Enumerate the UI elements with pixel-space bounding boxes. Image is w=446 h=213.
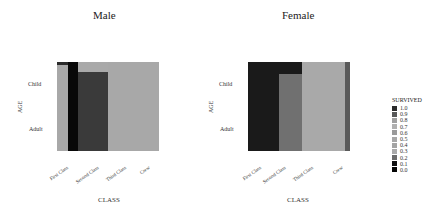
male-x-tick-first-class: First Class: [49, 165, 69, 181]
legend-swatch: [392, 161, 397, 166]
legend-label: 0.3: [400, 148, 408, 154]
male-x-axis-title: CLASS: [98, 196, 120, 204]
female-mosaic-tile: [302, 62, 345, 151]
male-x-tick-crew: Crew: [139, 165, 151, 175]
legend-swatch: [392, 143, 397, 148]
male-y-label-child: Child: [28, 81, 41, 87]
female-mosaic-tile: [279, 74, 302, 151]
legend-swatch: [392, 137, 397, 142]
legend-label: 1.0: [400, 105, 408, 111]
legend-label: 0.0: [400, 167, 408, 173]
male-y-axis-title: AGE: [17, 101, 23, 113]
legend-label: 0.5: [400, 136, 408, 142]
female-y-label-child: Child: [219, 81, 232, 87]
legend-swatch: [392, 130, 397, 135]
legend-items: 1.00.90.80.70.60.50.40.30.20.10.0: [392, 105, 422, 173]
female-mosaic-tile: [248, 62, 279, 151]
male-mosaic-tile: [78, 72, 108, 151]
male-panel-title: Male: [93, 9, 116, 21]
legend-swatch: [392, 149, 397, 154]
male-mosaic-tile: [68, 62, 78, 151]
legend-swatch: [392, 118, 397, 123]
legend-title: SURVIVED: [392, 97, 422, 103]
male-x-tick-second-class: Second Class: [75, 165, 100, 184]
male-mosaic-tile: [108, 62, 159, 151]
female-x-tick-crew: Crew: [332, 165, 344, 175]
female-mosaic-tile: [345, 62, 350, 151]
male-mosaic-tile: [78, 62, 108, 72]
legend-item: 0.0: [392, 167, 422, 173]
female-panel-title: Female: [282, 9, 314, 21]
legend-label: 0.1: [400, 161, 408, 167]
male-mosaic-tile: [57, 65, 68, 151]
female-y-label-adult: Adult: [220, 126, 234, 132]
legend-label: 0.9: [400, 111, 408, 117]
female-x-tick-second-class: Second Class: [262, 165, 287, 184]
legend-label: 0.4: [400, 142, 408, 148]
female-x-tick-first-class: First Class: [242, 165, 262, 181]
male-x-tick-third-class: Third Class: [105, 165, 127, 182]
legend-swatch: [392, 124, 397, 129]
female-x-axis-title: CLASS: [287, 196, 309, 204]
legend-label: 0.6: [400, 130, 408, 136]
legend-swatch: [392, 167, 397, 172]
legend-label: 0.7: [400, 124, 408, 130]
survived-legend: SURVIVED 1.00.90.80.70.60.50.40.30.20.10…: [392, 97, 422, 173]
legend-swatch: [392, 155, 397, 160]
legend-label: 0.8: [400, 117, 408, 123]
female-mosaic-tile: [279, 62, 302, 74]
female-x-tick-third-class: Third Class: [292, 165, 314, 182]
legend-label: 0.2: [400, 155, 408, 161]
female-y-axis-title: AGE: [208, 101, 214, 113]
male-y-label-adult: Adult: [29, 126, 43, 132]
legend-swatch: [392, 106, 397, 111]
legend-swatch: [392, 112, 397, 117]
